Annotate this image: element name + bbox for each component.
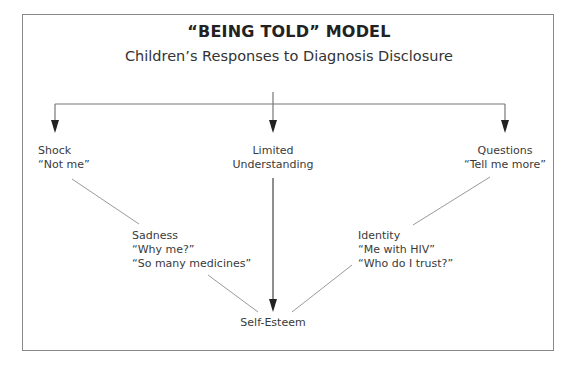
connector-lines <box>0 0 578 368</box>
arrow-questions <box>501 104 509 133</box>
node-self-esteem: Self-Esteem <box>223 316 323 330</box>
self-esteem-label: Self-Esteem <box>223 316 323 330</box>
connector-identity-to-self-esteem <box>292 265 352 312</box>
node-limited-understanding: Limited Understanding <box>223 144 323 172</box>
node-identity: Identity “Me with HIV” “Who do I trust?” <box>358 229 453 271</box>
identity-quote-1: “Me with HIV” <box>358 243 453 257</box>
arrow-limited <box>269 104 277 133</box>
connector-sadness-to-self-esteem <box>208 275 258 312</box>
sadness-quote-2: “So many medicines” <box>132 257 251 271</box>
questions-quote: “Tell me more” <box>460 158 550 172</box>
node-sadness: Sadness “Why me?” “So many medicines” <box>132 229 251 271</box>
limited-line1: Limited <box>223 144 323 158</box>
identity-label: Identity <box>358 229 453 243</box>
connector-questions-to-identity <box>413 177 490 225</box>
top-bracket <box>55 92 505 104</box>
sadness-quote-1: “Why me?” <box>132 243 251 257</box>
identity-quote-2: “Who do I trust?” <box>358 257 453 271</box>
limited-line2: Understanding <box>223 158 323 172</box>
shock-label: Shock <box>38 144 90 158</box>
questions-label: Questions <box>460 144 550 158</box>
node-questions: Questions “Tell me more” <box>460 144 550 172</box>
arrow-shock <box>51 104 59 133</box>
sadness-label: Sadness <box>132 229 251 243</box>
node-shock: Shock “Not me” <box>38 144 90 172</box>
shock-quote: “Not me” <box>38 158 90 172</box>
connector-shock-to-sadness <box>72 179 139 224</box>
arrow-limited-to-self-esteem <box>269 178 277 312</box>
